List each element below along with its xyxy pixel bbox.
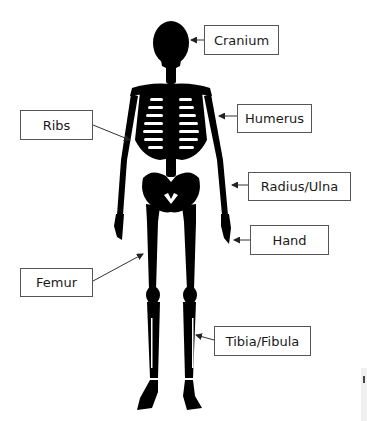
arrow-ribs [93,125,130,140]
label-hand: Hand [250,225,329,255]
right-tibia [183,302,196,378]
arrow-femur [93,254,143,281]
left-foot [137,380,158,410]
left-forearm [117,160,127,215]
label-text: Radius/Ulna [261,179,338,194]
label-text: Tibia/Fibula [226,334,300,349]
right-hand [221,214,231,244]
cervical-spine [166,62,176,84]
label-text: Ribs [43,118,71,133]
label-text: Cranium [214,33,269,48]
label-radius-ulna: Radius/Ulna [248,172,351,201]
right-forearm [217,160,228,215]
label-text: Humerus [245,111,304,126]
lumbar-spine [166,155,176,177]
label-femur: Femur [20,268,93,297]
right-femur [182,204,196,290]
label-tibia-fibula: Tibia/Fibula [214,326,311,356]
left-femur [146,204,160,290]
rib-cage [135,92,207,160]
label-humerus: Humerus [237,104,312,133]
skull [153,21,189,65]
skeleton-diagram [0,0,367,421]
arrow-tibia-fibula [196,335,214,340]
left-hand [114,214,124,240]
label-text: Hand [272,233,306,248]
right-humerus [204,94,223,160]
label-cranium: Cranium [204,25,279,55]
left-tibia [147,302,160,378]
right-foot [183,380,202,410]
cropped-edge-fragment [361,368,367,421]
label-ribs: Ribs [20,110,93,140]
label-text: Femur [36,275,77,290]
left-humerus [121,94,138,160]
